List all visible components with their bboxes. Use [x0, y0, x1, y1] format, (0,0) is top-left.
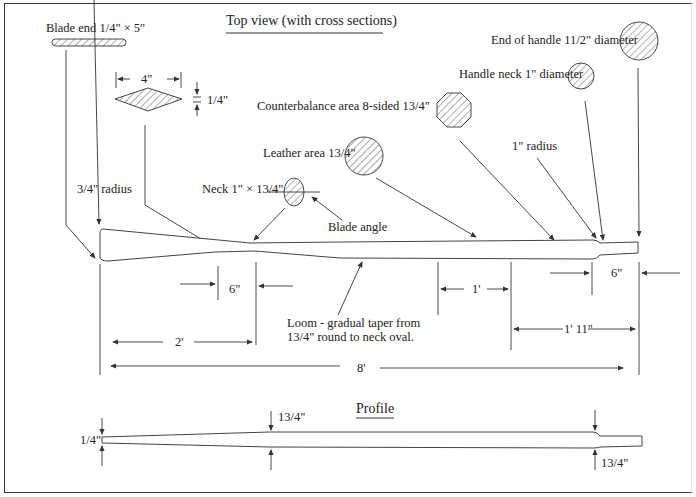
- svg-text:Leather area 13/4": Leather area 13/4": [263, 146, 356, 160]
- svg-text:End of handle 11/2" diameter: End of handle 11/2" diameter: [491, 33, 639, 47]
- svg-text:Counterbalance area 8-sided 13: Counterbalance area 8-sided 13/4": [257, 99, 430, 113]
- handle-end-hatch: [620, 22, 658, 60]
- svg-text:Profile: Profile: [356, 401, 394, 416]
- counterbalance-length-label: 1': [472, 282, 481, 296]
- loom-callout: Loom - gradual taper from 13/4" round to…: [287, 262, 421, 344]
- oar-diagram: Top view (with cross sections) Blade end…: [0, 0, 696, 497]
- svg-text:Blade angle: Blade angle: [328, 220, 388, 234]
- svg-text:Neck 1" × 13/4": Neck 1" × 13/4": [202, 182, 283, 196]
- oar-profile: [102, 432, 642, 448]
- total-length-label: 8': [357, 361, 366, 375]
- blade-length-label: 2': [175, 335, 184, 349]
- svg-text:Blade end 1/4" × 5": Blade end 1/4" × 5": [46, 21, 145, 35]
- counterbalance-hatch: [437, 93, 471, 127]
- leather-hatch: [345, 137, 383, 175]
- handle-end-section: End of handle 11/2" diameter: [491, 22, 658, 236]
- svg-text:Handle neck 1" diameter: Handle neck 1" diameter: [459, 67, 584, 81]
- handle-radius-callout: 1" radius: [512, 139, 596, 238]
- profile-blade-tip-label: 1/4": [80, 433, 101, 447]
- profile-view: Profile 1/4" 13/4" 13/4": [80, 401, 642, 470]
- handle-length-label: 6": [611, 266, 622, 280]
- counterbalance-section: Counterbalance area 8-sided 13/4": [257, 93, 554, 240]
- profile-handle-label: 13/4": [601, 456, 628, 470]
- profile-loom-label: 13/4": [278, 410, 305, 424]
- blade-width-section: 4" 1/4": [115, 72, 228, 245]
- top-view-title: Top view (with cross sections): [226, 13, 397, 33]
- blade-end-hatch: [52, 39, 126, 46]
- svg-text:3/4" radius: 3/4" radius: [77, 182, 132, 196]
- handle-section-label: 1' 11": [564, 322, 593, 336]
- svg-text:13/4" round to neck oval.: 13/4" round to neck oval.: [287, 330, 414, 344]
- blade-width-hatch: [115, 88, 182, 111]
- neck-section: Neck 1" × 13/4" Blade angle: [202, 178, 388, 240]
- neck-length-label: 6": [229, 282, 240, 296]
- handle-neck-hatch: [568, 63, 594, 89]
- svg-text:Top view (with cross sections): Top view (with cross sections): [226, 13, 397, 29]
- svg-text:4": 4": [141, 72, 152, 86]
- svg-text:1/4": 1/4": [207, 93, 228, 107]
- svg-text:Loom - gradual taper from: Loom - gradual taper from: [287, 316, 421, 330]
- svg-text:1" radius: 1" radius: [512, 139, 557, 153]
- neck-hatch: [284, 178, 304, 206]
